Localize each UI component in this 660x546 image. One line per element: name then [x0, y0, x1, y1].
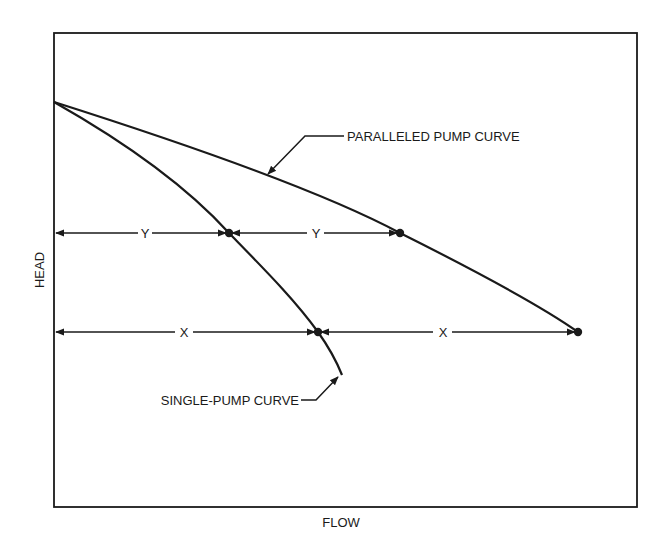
x-dimension-label-left: X [180, 325, 189, 340]
paralleled-leader-line [268, 136, 344, 174]
x-dimension-label-right: X [439, 325, 448, 340]
y-axis-label: HEAD [32, 252, 47, 288]
single-pump-point-x [314, 328, 322, 336]
single-pump-curve-label: SINGLE-PUMP CURVE [161, 393, 300, 408]
single-leader-line [301, 377, 338, 400]
y-dimension-label-left: Y [141, 226, 150, 241]
single-pump-point-y [225, 229, 233, 237]
pump-curve-diagram: Y Y X X PARALLELED PUMP CURVE SINGLE-PUM… [0, 0, 660, 546]
paralleled-pump-point-x [574, 328, 582, 336]
y-dimension-label-right: Y [312, 226, 321, 241]
paralleled-pump-point-y [396, 229, 404, 237]
x-axis-label: FLOW [322, 515, 360, 530]
plot-frame [54, 33, 637, 507]
paralleled-pump-curve-label: PARALLELED PUMP CURVE [347, 129, 520, 144]
